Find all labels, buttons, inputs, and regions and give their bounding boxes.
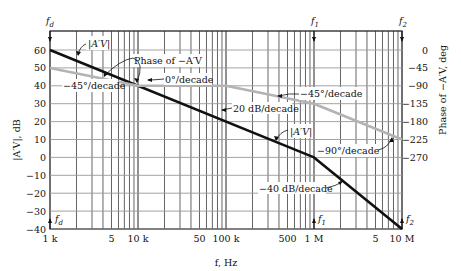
grid [50,31,402,229]
y-right-tick-label: −270 [402,152,428,163]
x-tick-label: 10 k [128,233,149,244]
magnitude-label: |A′V| [88,38,110,50]
arrowhead [312,37,316,42]
slope-minus45-b: −45°/decade [300,88,363,99]
y-tick-label: 20 [34,116,46,127]
f2-top-label: f2 [398,15,408,29]
f1-top-label: f1 [310,15,319,29]
f1-bottom-label: f1 [317,213,326,227]
y-tick-label: 0 [40,152,46,163]
slope-minus90: −90°/decade [317,145,380,156]
arrowhead [48,218,52,223]
bode-plot: 1 k510 k50100 k5001 M510 M6050403020100−… [0,0,461,271]
slope-20db: 20 dB/decade [233,103,299,114]
x-tick-label: 1 k [43,233,58,244]
x-axis-label: f, Hz [215,257,238,268]
y-tick-label: 40 [34,80,46,91]
y-right-tick-label: −135 [402,98,428,109]
f2-bottom-label: f2 [405,213,415,227]
arrowhead [312,218,316,223]
y-tick-label: −20 [26,188,46,199]
y-tick-label: −10 [26,170,46,181]
slope-0-deg: 0°/decade [165,74,214,85]
y-right-tick-label: −90 [408,80,428,91]
y-axis-right-label: Phase of −A′V, deg [437,45,448,135]
slope-minus40db: −40 dB/decade [259,183,333,194]
y-tick-label: 30 [34,98,46,109]
x-tick-label: 5 [108,233,114,244]
x-tick-label: 50 [193,233,205,244]
magnitude-label-2: |A′V| [290,126,312,138]
y-right-tick-label: 0 [422,45,428,56]
slope-minus45-a: −45°/decade [63,80,126,91]
y-right-tick-label: −225 [402,134,428,145]
y-tick-label: 10 [34,134,46,145]
y-tick-label: 60 [34,45,46,56]
x-tick-label: 500 [278,233,296,244]
x-tick-label: 5 [372,233,378,244]
x-tick-label: 10 M [390,233,415,244]
phase-label: Phase of −A′V [134,55,202,66]
arrowhead [400,37,404,42]
arrowhead [48,37,52,42]
y-tick-label: −30 [26,206,46,217]
fd-top-label: fd [45,15,55,29]
x-tick-label: 1 M [305,233,324,244]
y-axis-label: |A′V|, dB [11,119,23,160]
y-tick-label: −40 [26,224,46,235]
y-tick-label: 50 [34,62,46,73]
x-tick-label: 100 k [213,233,240,244]
y-right-tick-label: −180 [402,116,428,127]
y-right-tick-label: −45 [408,62,428,73]
fd-bottom-label: fd [54,213,64,227]
arrowhead [400,218,404,223]
